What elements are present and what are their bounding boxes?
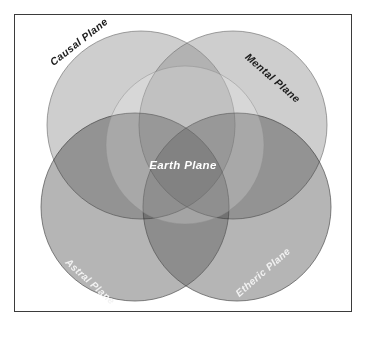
diagram-frame: Causal Plane Mental Plane Astral Plane E…	[14, 14, 352, 312]
circle-earth-plane	[106, 66, 264, 224]
venn-diagram	[15, 15, 353, 313]
